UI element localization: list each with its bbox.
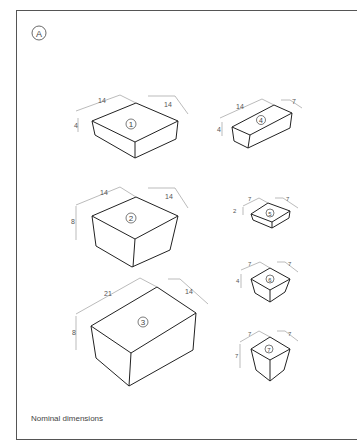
- svg-text:7: 7: [248, 196, 252, 202]
- svg-text:3: 3: [141, 318, 146, 327]
- svg-text:14: 14: [164, 101, 172, 108]
- svg-text:7: 7: [235, 353, 239, 359]
- svg-text:1: 1: [129, 120, 134, 129]
- svg-text:14: 14: [165, 193, 173, 200]
- svg-text:4: 4: [259, 117, 263, 124]
- figure-label: A: [32, 26, 46, 40]
- svg-text:7: 7: [248, 331, 252, 337]
- box-3: 3 21 14 8: [72, 278, 208, 386]
- svg-text:8: 8: [72, 329, 76, 336]
- figure-label-text: A: [36, 29, 42, 39]
- svg-text:14: 14: [185, 288, 193, 295]
- svg-text:4: 4: [74, 122, 78, 129]
- svg-text:8: 8: [71, 218, 75, 225]
- box-4: 4 14 7 4: [217, 98, 302, 148]
- box-2: 2 14 14 8: [71, 187, 188, 267]
- box-6: 6 7 7 4: [236, 261, 298, 302]
- svg-text:2: 2: [129, 214, 134, 223]
- box-5: 5 7 7 2: [233, 196, 298, 228]
- svg-text:14: 14: [236, 103, 244, 110]
- svg-text:4: 4: [217, 126, 221, 133]
- svg-text:21: 21: [104, 290, 112, 297]
- svg-text:14: 14: [98, 97, 106, 104]
- svg-text:7: 7: [288, 261, 292, 267]
- svg-text:14: 14: [100, 189, 108, 196]
- svg-text:2: 2: [233, 208, 237, 214]
- svg-text:7: 7: [248, 261, 252, 267]
- svg-text:4: 4: [236, 278, 240, 284]
- box-1: 1 14 14 4: [74, 95, 188, 158]
- box-7: 7 7 7 7: [235, 331, 298, 381]
- caption: Nominal dimensions: [31, 414, 103, 423]
- svg-text:7: 7: [286, 196, 290, 202]
- svg-text:7: 7: [292, 98, 296, 105]
